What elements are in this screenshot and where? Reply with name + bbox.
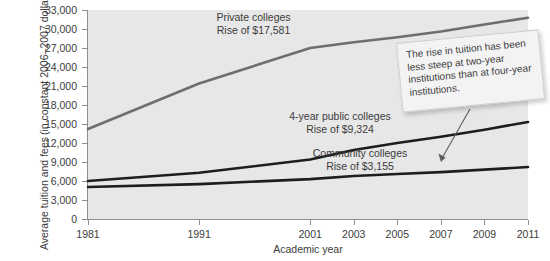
annotation-community-rise: Rise of $3,155 <box>290 160 430 173</box>
x-tick-label: 1981 <box>66 228 110 240</box>
annotation-public-rise: Rise of $9,324 <box>265 123 415 136</box>
y-tick-label: 3,000 <box>17 195 77 205</box>
x-tick-label: 2009 <box>462 228 506 240</box>
scan-artifact <box>205 86 210 101</box>
x-tick-mark <box>88 220 89 225</box>
annotation-private-name: Private colleges <box>186 11 321 24</box>
y-tick-label: 18,000 <box>17 100 77 110</box>
y-tick-mark <box>82 143 87 144</box>
x-axis-line <box>87 219 528 220</box>
y-tick-mark <box>82 29 87 30</box>
x-tick-mark <box>441 220 442 225</box>
x-tick-label: 2001 <box>288 228 332 240</box>
y-tick-label: 27,000 <box>17 43 77 53</box>
y-tick-mark <box>82 105 87 106</box>
x-tick-mark <box>528 220 529 225</box>
x-tick-label: 2007 <box>419 228 463 240</box>
callout-note: The rise in tuition has been less steep … <box>396 29 545 112</box>
annotation-private-rise: Rise of $17,581 <box>186 24 321 37</box>
y-tick-mark <box>82 67 87 68</box>
y-tick-label: 9,000 <box>17 157 77 167</box>
y-tick-mark <box>82 10 87 11</box>
y-tick-label: 21,000 <box>17 81 77 91</box>
y-tick-label: 12,000 <box>17 138 77 148</box>
y-tick-label: 6,000 <box>17 176 77 186</box>
annotation-private-colleges: Private colleges Rise of $17,581 <box>186 11 321 36</box>
y-tick-label: 0 <box>17 214 77 224</box>
y-tick-label: 15,000 <box>17 119 77 129</box>
x-tick-mark <box>397 220 398 225</box>
y-tick-mark <box>82 86 87 87</box>
y-tick-mark <box>82 219 87 220</box>
y-tick-mark <box>82 200 87 201</box>
x-tick-label: 2011 <box>506 228 550 240</box>
y-tick-label: 30,000 <box>17 24 77 34</box>
callout-note-text: The rise in tuition has been less steep … <box>406 37 536 99</box>
y-axis-title-line1: Average tuition and fees <box>38 137 50 250</box>
y-tick-label: 24,000 <box>17 62 77 72</box>
x-tick-mark <box>199 220 200 225</box>
annotation-public-name: 4-year public colleges <box>265 110 415 123</box>
x-tick-label: 2005 <box>375 228 419 240</box>
annotation-community-colleges: Community colleges Rise of $3,155 <box>290 147 430 172</box>
x-tick-mark <box>310 220 311 225</box>
y-tick-mark <box>82 124 87 125</box>
annotation-community-name: Community colleges <box>290 147 430 160</box>
y-axis-line <box>87 10 88 220</box>
y-tick-label: 33,000 <box>17 5 77 15</box>
annotation-public-colleges: 4-year public colleges Rise of $9,324 <box>265 110 415 135</box>
x-tick-label: 1991 <box>177 228 221 240</box>
y-tick-mark <box>82 162 87 163</box>
y-tick-mark <box>82 48 87 49</box>
y-tick-mark <box>82 181 87 182</box>
x-tick-label: 2003 <box>332 228 376 240</box>
x-axis-title: Academic year <box>88 243 528 255</box>
x-tick-mark <box>354 220 355 225</box>
x-tick-mark <box>484 220 485 225</box>
